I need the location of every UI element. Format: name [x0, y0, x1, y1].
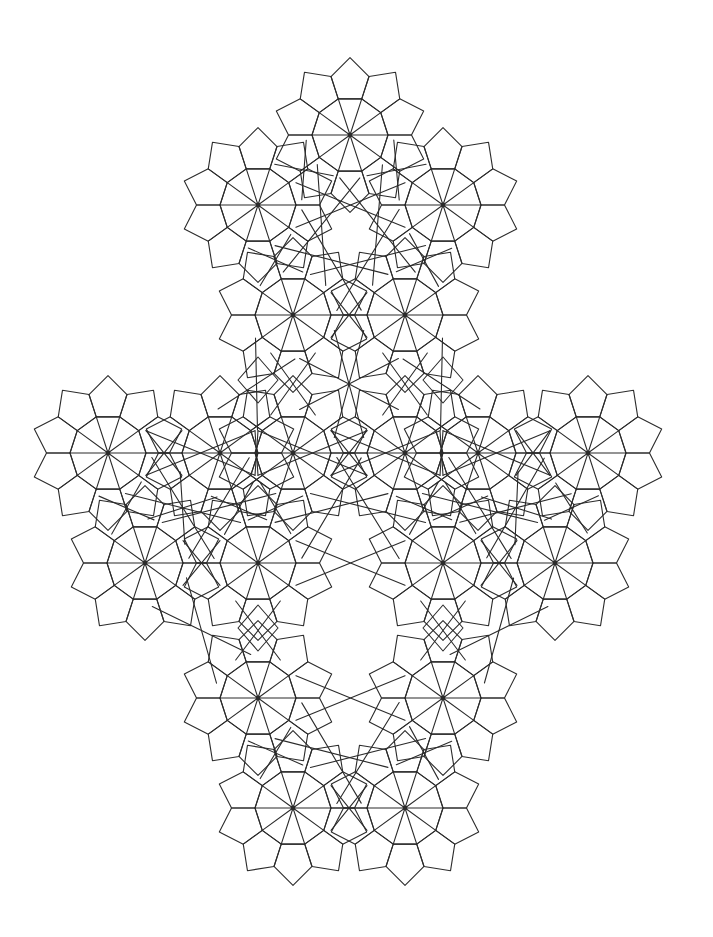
rosette-center-dot	[441, 203, 446, 208]
rosette-center-dot	[586, 451, 591, 456]
rosette-center-dot	[256, 696, 261, 701]
rosette-center-dot	[256, 203, 261, 208]
rosette-center-dot	[403, 806, 408, 811]
rosette-center-dot	[403, 313, 408, 318]
rosette-center-dot	[441, 696, 446, 701]
rosette-center-dot	[291, 806, 296, 811]
rosette-center-dot	[143, 561, 148, 566]
rosette-center-dot	[553, 561, 558, 566]
rosette-center-dot	[256, 561, 261, 566]
canvas-background	[0, 0, 713, 937]
rosette-center-dot	[348, 133, 353, 138]
rosette-center-dot	[106, 451, 111, 456]
rosette-center-dot	[476, 451, 481, 456]
rosette-center-dot	[403, 451, 408, 456]
rosette-center-dot	[441, 561, 446, 566]
geometric-pattern-artwork	[0, 0, 713, 937]
rosette-center-dot	[218, 451, 223, 456]
rosette-center-dot	[291, 451, 296, 456]
rosette-center-dot	[291, 313, 296, 318]
